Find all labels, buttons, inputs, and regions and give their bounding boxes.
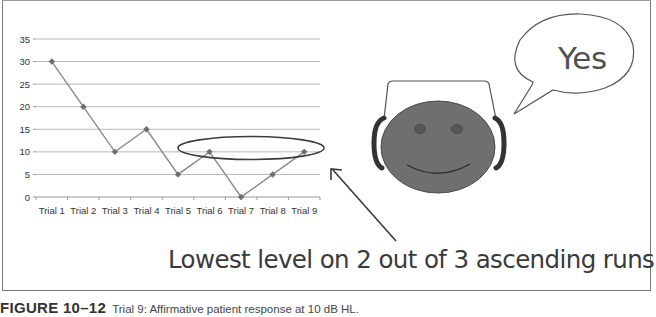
- y-tick-label: 10: [19, 146, 30, 157]
- x-tick-label: Trial 2: [70, 205, 96, 216]
- x-tick-label: Trial 8: [260, 205, 286, 216]
- x-tick-label: Trial 5: [165, 205, 191, 216]
- caption-text: Trial 9: Affirmative patient response at…: [112, 303, 359, 315]
- arrow-icon: [331, 169, 396, 241]
- face: [381, 101, 495, 193]
- line-chart: 05101520253035Trial 1Trial 2Trial 3Trial…: [19, 34, 320, 217]
- x-tick-label: Trial 1: [39, 205, 65, 216]
- figure-label: FIGURE 10–12: [0, 299, 106, 316]
- y-tick-label: 20: [19, 101, 30, 112]
- y-tick-label: 5: [25, 169, 30, 180]
- highlight-ellipse: [178, 137, 324, 160]
- x-tick-label: Trial 9: [291, 205, 317, 216]
- x-tick-label: Trial 7: [228, 205, 254, 216]
- patient-face-illustration: [374, 81, 504, 193]
- annotation-label: Lowest level on 2 out of 3 ascending run…: [168, 245, 654, 274]
- right-eye-icon: [452, 125, 463, 134]
- y-tick-label: 25: [19, 79, 30, 90]
- x-tick-label: Trial 6: [197, 205, 223, 216]
- y-tick-label: 15: [19, 124, 30, 135]
- figure-caption: FIGURE 10–12Trial 9: Affirmative patient…: [0, 300, 359, 317]
- x-tick-label: Trial 4: [133, 205, 159, 216]
- y-tick-label: 30: [19, 56, 30, 67]
- left-eye-icon: [415, 125, 426, 134]
- speech-bubble-text: Yes: [558, 40, 607, 76]
- y-tick-label: 0: [25, 192, 30, 203]
- x-tick-label: Trial 3: [102, 205, 128, 216]
- y-tick-label: 35: [19, 34, 30, 45]
- right-earcup-icon: [495, 118, 504, 168]
